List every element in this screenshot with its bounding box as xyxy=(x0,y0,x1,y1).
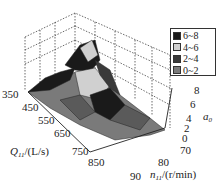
svg-text:90: 90 xyxy=(130,170,142,182)
legend-item: 0~2 xyxy=(173,65,213,77)
x-axis-label: Q11/(L/s) xyxy=(10,145,49,159)
svg-text:450: 450 xyxy=(22,101,39,113)
legend-swatch xyxy=(173,66,181,74)
legend: 6~8 4~6 2~4 0~2 xyxy=(170,28,216,76)
svg-text:6: 6 xyxy=(190,98,196,110)
legend-item: 2~4 xyxy=(173,53,213,65)
legend-item: 4~6 xyxy=(173,42,213,54)
y-axis-label: n11/(r/min) xyxy=(150,168,197,182)
svg-text:550: 550 xyxy=(38,114,55,126)
z-ticks: 0 2 4 6 8 xyxy=(182,84,200,144)
svg-text:8: 8 xyxy=(194,84,200,96)
svg-text:850: 850 xyxy=(88,156,105,168)
z-axis-label: a0 xyxy=(203,110,213,124)
svg-text:650: 650 xyxy=(54,127,71,139)
legend-item: 6~8 xyxy=(173,30,213,42)
legend-swatch xyxy=(173,32,181,40)
svg-text:4: 4 xyxy=(186,112,192,124)
legend-swatch xyxy=(173,55,181,63)
svg-text:80: 80 xyxy=(158,156,170,168)
svg-text:750: 750 xyxy=(72,145,89,157)
svg-text:70: 70 xyxy=(180,144,192,156)
legend-swatch xyxy=(173,43,181,51)
svg-text:350: 350 xyxy=(2,88,19,100)
